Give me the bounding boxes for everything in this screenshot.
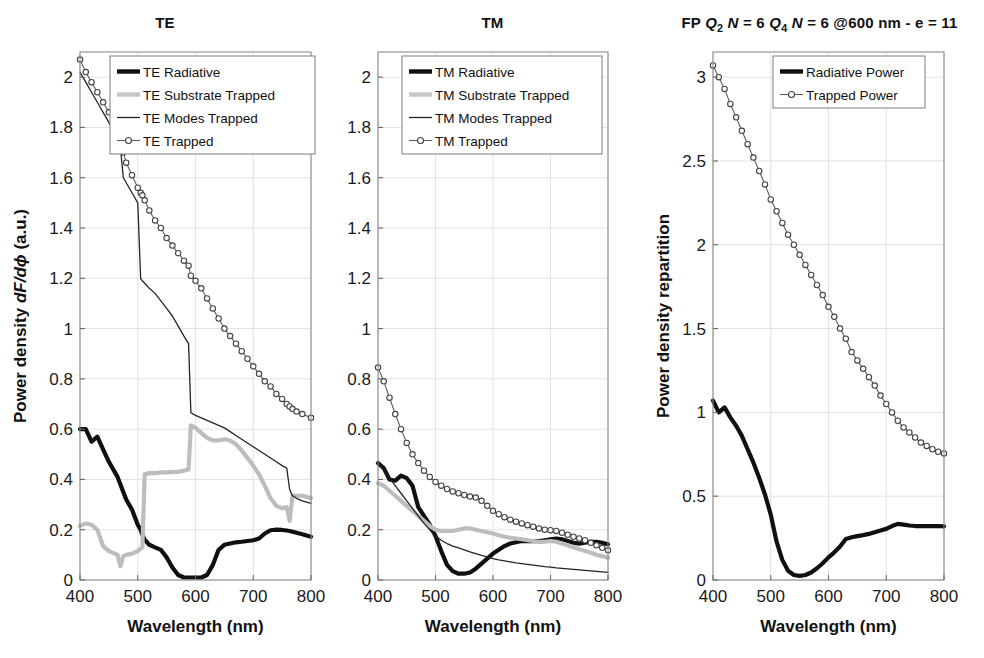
panel-tm-title: TM [330, 14, 655, 31]
series-marker [274, 391, 279, 396]
panel-te-plot: 40050060070080000.20.40.60.811.21.41.61.… [0, 0, 330, 658]
series-marker [381, 379, 386, 384]
series-marker [508, 517, 513, 522]
series-marker [837, 326, 842, 331]
legend-label: TM Modes Trapped [435, 111, 552, 126]
series-marker [860, 366, 865, 371]
series-marker [912, 435, 917, 440]
y-tick-label: 1.4 [49, 219, 73, 238]
legend-label: TE Substrate Trapped [143, 88, 275, 103]
y-tick-label: 1.4 [347, 219, 371, 238]
series-marker [193, 278, 198, 283]
series-marker [536, 526, 541, 531]
series-marker [745, 141, 750, 146]
y-tick-label: 3 [697, 68, 706, 87]
series-marker [519, 521, 524, 526]
series-marker [582, 538, 587, 543]
y-tick-label: 1.5 [682, 320, 706, 339]
x-axis-title: Wavelength (nm) [760, 617, 896, 636]
series-marker [542, 527, 547, 532]
series-marker [427, 474, 432, 479]
x-tick-label: 600 [814, 587, 842, 606]
y-tick-label: 0.8 [347, 370, 371, 389]
series-marker [251, 364, 256, 369]
series-marker [559, 530, 564, 535]
series-marker [843, 336, 848, 341]
x-tick-label: 800 [297, 587, 325, 606]
series-marker [256, 371, 261, 376]
y-tick-label: 2 [362, 68, 371, 87]
x-tick-label: 800 [594, 587, 622, 606]
series-marker [895, 418, 900, 423]
y-tick-label: 0.6 [49, 420, 73, 439]
series-marker [485, 503, 490, 508]
series-marker [594, 543, 599, 548]
series-marker [762, 182, 767, 187]
series-marker [188, 273, 193, 278]
x-tick-label: 500 [124, 587, 152, 606]
panel-tm-plot: 40050060070080000.20.40.60.811.21.41.61.… [330, 0, 655, 658]
y-tick-label: 2 [697, 236, 706, 255]
series-marker [124, 160, 129, 165]
legend-label: TE Modes Trapped [143, 111, 258, 126]
series-marker [768, 197, 773, 202]
series-marker [722, 86, 727, 91]
panel-fp-title: FP Q2 N = 6 Q4 N = 6 @600 nm - e = 11 [655, 14, 984, 34]
series-marker [728, 101, 733, 106]
legend-marker [789, 92, 795, 98]
x-tick-label: 700 [239, 587, 267, 606]
series-marker [780, 220, 785, 225]
series-marker [502, 514, 507, 519]
y-tick-label: 1 [362, 320, 371, 339]
series-marker [930, 447, 935, 452]
series-marker [872, 383, 877, 388]
x-tick-label: 500 [421, 587, 449, 606]
series-marker [433, 479, 438, 484]
y-tick-label: 0.2 [49, 521, 73, 540]
legend-marker [418, 138, 424, 144]
legend: TM RadiativeTM Substrate TrappedTM Modes… [402, 56, 602, 154]
y-tick-label: 0.4 [49, 470, 73, 489]
series-marker [479, 498, 484, 503]
y-tick-label: 0.5 [682, 487, 706, 506]
series-marker [216, 316, 221, 321]
legend: Radiative PowerTrapped Power [773, 56, 925, 108]
series-marker [175, 250, 180, 255]
series-marker [588, 540, 593, 545]
series-marker [444, 486, 449, 491]
series-marker [924, 443, 929, 448]
series-marker [548, 528, 553, 533]
y-tick-label: 2 [64, 68, 73, 87]
series-marker [884, 401, 889, 406]
legend-label: Trapped Power [806, 88, 898, 103]
y-tick-label: 1.6 [49, 169, 73, 188]
series-marker [239, 349, 244, 354]
panel-te-title: TE [0, 14, 330, 31]
x-tick-label: 800 [930, 587, 958, 606]
series-marker [936, 449, 941, 454]
y-tick-label: 0 [64, 571, 73, 590]
series-marker [571, 534, 576, 539]
panel-fp-plot: 40050060070080000.511.522.53Wavelength (… [655, 0, 984, 658]
series-marker [199, 286, 204, 291]
y-tick-label: 1.8 [347, 118, 371, 137]
series-marker [227, 333, 232, 338]
series-marker [129, 173, 134, 178]
series-marker [164, 235, 169, 240]
y-tick-label: 0.2 [347, 521, 371, 540]
y-tick-label: 0.4 [347, 470, 371, 489]
series-marker [147, 208, 152, 213]
legend-label: TM Substrate Trapped [435, 88, 569, 103]
y-tick-label: 1.2 [49, 269, 73, 288]
x-tick-label: 700 [536, 587, 564, 606]
legend: TE RadiativeTE Substrate TrappedTE Modes… [110, 56, 315, 154]
series-marker [855, 358, 860, 363]
series-marker [600, 545, 605, 550]
series-marker [404, 440, 409, 445]
series-marker [170, 243, 175, 248]
figure-root: TE 40050060070080000.20.40.60.811.21.41.… [0, 0, 984, 658]
series-marker [803, 262, 808, 267]
legend-label: TM Radiative [435, 65, 515, 80]
series-marker [410, 452, 415, 457]
series-marker [279, 396, 284, 401]
